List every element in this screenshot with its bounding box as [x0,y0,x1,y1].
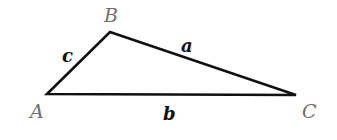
side-label-b: b [163,103,176,124]
vertex-label-b: B [103,4,118,26]
triangle-svg: B A C c a b [0,0,337,140]
side-label-a: a [181,35,193,56]
vertex-label-a: A [28,100,44,122]
side-label-c: c [62,45,73,66]
triangle-diagram: B A C c a b [0,0,337,140]
triangle-abc [47,32,296,95]
vertex-label-c: C [302,100,317,122]
